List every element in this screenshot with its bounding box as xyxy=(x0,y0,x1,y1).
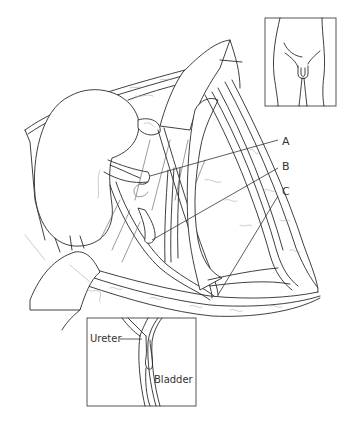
callout-label-b: B xyxy=(282,160,290,173)
orientation-inset xyxy=(265,18,336,106)
callout-B: B xyxy=(152,160,290,240)
anatomical-illustration: A B C Ureter Bladder xyxy=(0,0,358,425)
callout-label-c: C xyxy=(282,185,290,198)
bladder-label: Bladder xyxy=(154,374,194,385)
ureter-label: Ureter xyxy=(90,333,122,344)
ureter-bladder-inset: Ureter Bladder xyxy=(87,318,196,406)
callout-label-a: A xyxy=(282,135,290,148)
callout-C: C xyxy=(218,185,290,295)
